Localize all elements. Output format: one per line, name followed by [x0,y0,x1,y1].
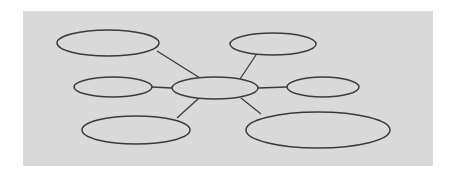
node-top-right [230,33,316,55]
node-top-left [57,30,159,56]
node-bottom-right [246,112,390,148]
node-bottom-left [82,116,190,144]
node-middle-left [74,77,152,97]
node-middle-right [287,77,359,97]
hub-spoke-diagram [0,0,457,179]
hub-node-center [172,77,258,99]
diagram-stage [0,0,457,179]
